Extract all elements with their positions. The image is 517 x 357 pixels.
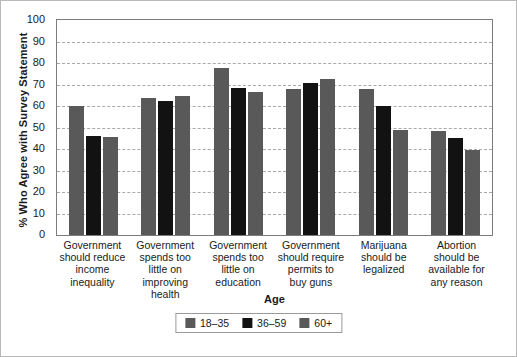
x-axis-category-label: Governmentshould reduceincomeinequality	[56, 239, 129, 300]
bar-group	[420, 20, 493, 235]
legend-label: 36–59	[257, 317, 286, 329]
legend: 18–3536–5960+	[175, 313, 342, 333]
bar-group	[347, 20, 420, 235]
bar-group	[202, 20, 275, 235]
bar	[376, 106, 391, 235]
legend-item[interactable]: 60+	[299, 317, 332, 329]
bar	[231, 88, 246, 235]
bar	[320, 79, 335, 235]
bar	[214, 68, 229, 235]
bar	[465, 150, 480, 235]
legend-item[interactable]: 36–59	[242, 317, 286, 329]
bar	[103, 137, 118, 235]
legend-item[interactable]: 18–35	[185, 317, 229, 329]
bar	[158, 101, 173, 235]
x-axis-category-label: Abortionshould beavailable forany reason	[420, 239, 493, 300]
y-axis-tick-label: 0	[7, 229, 45, 240]
y-axis-tick-label: 70	[7, 79, 45, 90]
chart-frame: % Who Agree with Survey Statement 010203…	[0, 0, 517, 357]
y-axis-tick-label: 40	[7, 143, 45, 154]
bar	[248, 92, 263, 235]
y-axis-tick-label: 90	[7, 36, 45, 47]
legend-swatch-icon	[185, 318, 195, 328]
bar	[69, 106, 84, 235]
y-axis-tick-label: 80	[7, 57, 45, 68]
bar	[86, 136, 101, 235]
bar-group	[275, 20, 348, 235]
bar-group	[57, 20, 130, 235]
bar-group	[130, 20, 203, 235]
bar	[431, 131, 446, 235]
y-axis-tick-label: 60	[7, 100, 45, 111]
x-axis-category-label: Governmentspends toolittle oneducation	[202, 239, 275, 300]
y-axis-tick-label: 30	[7, 165, 45, 176]
y-axis-tick-label: 20	[7, 186, 45, 197]
x-axis-title: Age	[56, 293, 493, 305]
legend-label: 18–35	[200, 317, 229, 329]
bar	[286, 89, 301, 235]
bar	[393, 130, 408, 235]
legend-label: 60+	[314, 317, 332, 329]
x-axis-category-labels: Governmentshould reduceincomeinequalityG…	[56, 239, 493, 300]
bar	[141, 98, 156, 235]
y-axis-tick-label: 50	[7, 122, 45, 133]
x-axis-category-label: Governmentshould requirepermits tobuy gu…	[274, 239, 347, 300]
bar	[303, 83, 318, 235]
y-axis-tick-label: 100	[7, 14, 45, 25]
bar	[175, 96, 190, 235]
bar-groups	[57, 20, 492, 235]
plot-area	[56, 19, 493, 236]
bar	[359, 89, 374, 235]
legend-swatch-icon	[299, 318, 309, 328]
legend-swatch-icon	[242, 318, 252, 328]
y-axis-tick-label: 10	[7, 208, 45, 219]
x-axis-category-label: Governmentspends toolittle onimprovinghe…	[129, 239, 202, 300]
x-axis-category-label: Marijuanashould belegalized	[347, 239, 420, 300]
bar	[448, 138, 463, 235]
